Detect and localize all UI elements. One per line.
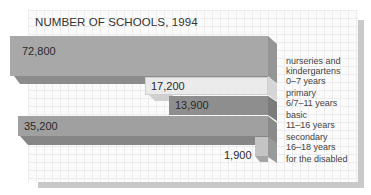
value-label: 72,800 [22, 45, 56, 57]
value-label: 35,200 [24, 120, 58, 132]
bar-disabled [255, 137, 268, 156]
category-label-secondary: secondary 16–18 years [286, 132, 336, 152]
category-label-disabled: for the disabled [286, 154, 348, 164]
bar-basic: 13,900 [169, 96, 268, 115]
value-label: 17,200 [151, 80, 185, 92]
category-label-nurseries: nurseries and kindergartens 0–7 years [286, 56, 341, 86]
bar-secondary-bottom [20, 136, 268, 145]
bar-nurseries-side [268, 36, 277, 84]
value-label: 13,900 [175, 99, 209, 111]
bar-nurseries: 72,800 [10, 36, 268, 76]
category-label-primary: primary 6/7–11 years [286, 88, 337, 108]
bar-primary: 17,200 [145, 77, 268, 95]
category-label-basic: basic 11–16 years [286, 110, 335, 130]
chart-title: NUMBER OF SCHOOLS, 1994 [35, 16, 198, 28]
bar-secondary: 35,200 [18, 116, 268, 136]
value-label: 1,900 [224, 149, 252, 161]
